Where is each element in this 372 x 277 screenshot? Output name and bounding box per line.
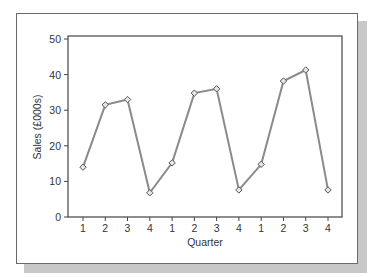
x-tick-label: 3 [303,222,309,234]
data-point-marker [325,187,331,193]
x-axis: 123412341234 [80,217,331,234]
x-tick-label: 2 [102,222,108,234]
x-tick-label: 4 [147,222,153,234]
x-tick-label: 4 [236,222,242,234]
x-tick-label: 3 [125,222,131,234]
data-point-marker [191,90,197,96]
data-point-marker [124,96,130,102]
data-point-marker [80,164,86,170]
x-tick-label: 1 [169,222,175,234]
x-tick-label: 1 [258,222,264,234]
y-tick-label: 0 [55,211,61,223]
y-tick-label: 30 [49,104,61,116]
x-tick-label: 1 [80,222,86,234]
y-tick-label: 50 [49,33,61,45]
y-axis-title: Sales (£000s) [31,95,43,160]
x-tick-label: 3 [214,222,220,234]
data-point-marker [213,86,219,92]
plot-border [68,36,342,217]
x-tick-label: 2 [191,222,197,234]
y-tick-label: 10 [49,175,61,187]
line-chart: 01020304050 123412341234 Quarter Sales (… [0,0,372,277]
y-axis: 01020304050 [49,33,68,223]
plot-area [68,36,342,217]
x-tick-label: 2 [281,222,287,234]
y-tick-label: 40 [49,69,61,81]
data-point-marker [102,102,108,108]
data-point-marker [280,78,286,84]
x-tick-label: 4 [325,222,331,234]
y-tick-label: 20 [49,140,61,152]
series-line [83,70,328,193]
data-series [80,67,331,196]
x-axis-title: Quarter [187,236,223,248]
